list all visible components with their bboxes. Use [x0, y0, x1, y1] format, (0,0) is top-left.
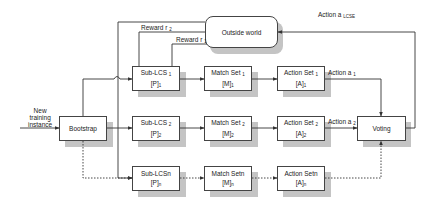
sub-lcs-2-node: Sub-LCS 2 [P]2 [132, 116, 180, 141]
match-set-2-node: Match Set 2 [M]2 [204, 116, 252, 141]
new-training-instance-label: New training instance [28, 107, 52, 128]
voting-node: Voting [357, 116, 406, 141]
reward-r1-label: Reward r 1 [176, 36, 207, 44]
action-a2-label: Action a 2 [328, 118, 356, 126]
match-set-n-node: Match Setn [M]n [204, 166, 252, 191]
action-set-1-node: Action Set 1 [A]1 [277, 66, 325, 91]
action-lcse-label: Action a LCSE [318, 11, 355, 19]
sub-lcs-n-node: Sub-LCSn [P]n [132, 166, 180, 191]
bootstrap-node: Bootstrap [59, 116, 107, 141]
reward-r2-label: Reward r 2 [141, 24, 172, 32]
action-set-n-node: Action Setn [A]n [277, 166, 325, 191]
action-a1-label: Action a 1 [328, 69, 356, 77]
lcs-ensemble-diagram: Outside world Reward r 2 Reward r 1 Acti… [0, 0, 434, 212]
match-set-1-node: Match Set 1 [M]1 [204, 66, 252, 91]
sub-lcs-1-node: Sub-LCS 1 [P]1 [132, 66, 180, 91]
outside-world-label: Outside world [222, 28, 262, 37]
outside-world-node: Outside world [205, 16, 278, 48]
action-set-2-node: Action Set 2 [A]2 [277, 116, 325, 141]
